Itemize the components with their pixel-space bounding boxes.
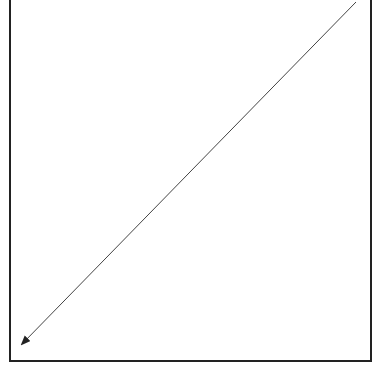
diagram-canvas	[0, 0, 376, 376]
frame-box	[9, 0, 372, 362]
diagonal-arrow	[22, 2, 356, 344]
